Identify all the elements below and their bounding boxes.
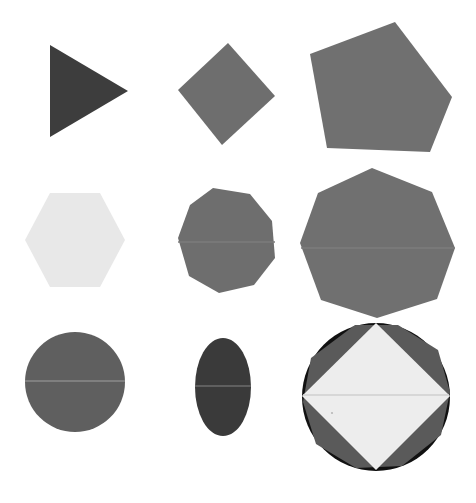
shape-composite[interactable] (302, 323, 450, 471)
shape-circle[interactable] (25, 332, 125, 432)
shapes-svg (0, 0, 476, 503)
shape-ellipse[interactable] (195, 338, 251, 436)
composite-speck-dot (331, 412, 333, 414)
shapes-canvas (0, 0, 476, 503)
